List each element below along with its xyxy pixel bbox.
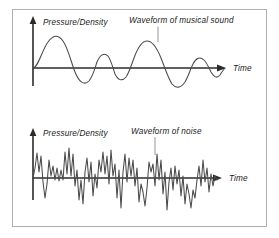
musical-waveform-path (33, 36, 225, 87)
chart-noise: Pressure/Density Waveform of noise Time (0, 110, 279, 238)
chart-musical-svg: Pressure/Density Waveform of musical sou… (0, 0, 279, 119)
chart-noise-svg: Pressure/Density Waveform of noise Time (0, 110, 279, 238)
noise-waveform-path (33, 148, 219, 210)
noise-y-axis-arrow-icon (30, 128, 37, 136)
musical-y-axis-label: Pressure/Density (43, 18, 108, 27)
waveform-figure: Pressure/Density Waveform of musical sou… (0, 0, 279, 238)
noise-x-axis-label: Time (229, 174, 248, 183)
chart-musical-sound: Pressure/Density Waveform of musical sou… (0, 0, 279, 119)
musical-caption: Waveform of musical sound (129, 16, 234, 25)
noise-y-axis-label: Pressure/Density (43, 129, 108, 138)
musical-x-axis-label: Time (233, 64, 252, 73)
noise-caption: Waveform of noise (131, 127, 202, 136)
musical-y-axis (30, 16, 37, 86)
musical-y-axis-arrow-icon (30, 16, 37, 24)
